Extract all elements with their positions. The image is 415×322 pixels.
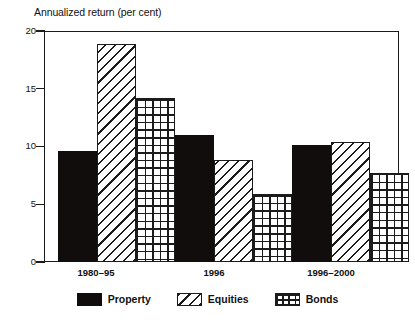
bars-layer xyxy=(44,31,399,262)
chart-legend: Property Equities Bonds xyxy=(0,293,415,306)
y-tick-label: 10 xyxy=(12,141,36,151)
legend-swatch-cross-hatch-icon xyxy=(275,293,300,306)
y-tick-label: 20 xyxy=(12,26,36,36)
legend-label-bonds: Bonds xyxy=(306,294,339,305)
bar-equities-1980-95 xyxy=(97,44,136,262)
legend-item-bonds: Bonds xyxy=(275,293,339,306)
bar-chart: Annualized return (per cent) 20 15 10 5 … xyxy=(0,0,415,322)
bar-property-1996-2000 xyxy=(292,145,331,262)
bar-property-1996 xyxy=(175,135,214,262)
x-axis-label-1996-2000: 1996–2000 xyxy=(252,267,410,278)
bar-equities-1996-2000 xyxy=(331,142,370,262)
bar-bonds-1996-2000 xyxy=(370,173,409,262)
chart-title: Annualized return (per cent) xyxy=(34,6,161,18)
legend-label-property: Property xyxy=(108,294,151,305)
bar-property-1980-95 xyxy=(58,151,97,262)
legend-swatch-solid-icon xyxy=(77,293,102,306)
bar-bonds-1996 xyxy=(253,194,292,262)
y-tick-label: 15 xyxy=(12,84,36,94)
bar-bonds-1980-95 xyxy=(136,98,175,262)
legend-label-equities: Equities xyxy=(208,294,249,305)
y-tick-label: 0 xyxy=(12,257,36,267)
legend-swatch-diagonal-hatch-icon xyxy=(177,293,202,306)
legend-item-property: Property xyxy=(77,293,151,306)
y-tick-label: 5 xyxy=(12,199,36,209)
bar-equities-1996 xyxy=(214,160,253,262)
legend-item-equities: Equities xyxy=(177,293,249,306)
